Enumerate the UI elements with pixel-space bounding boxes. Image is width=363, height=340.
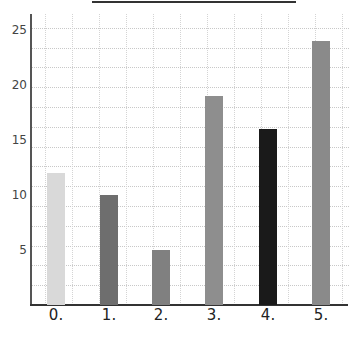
x-tick-label: 1.: [89, 306, 129, 324]
grid-line-h: [31, 48, 349, 49]
bar-2: [152, 250, 170, 305]
y-tick-label: 20: [0, 79, 27, 91]
grid-line-v: [45, 14, 46, 305]
y-tick-label: 15: [0, 134, 27, 146]
grid-line-h: [31, 265, 349, 266]
plot-area: [31, 14, 349, 305]
grid-line-v: [342, 14, 343, 305]
x-tick-label: 4.: [248, 306, 288, 324]
grid-line-h: [31, 67, 349, 68]
grid-line-v: [180, 14, 181, 305]
grid-line-h: [31, 87, 349, 88]
y-tick-label: 5: [0, 244, 27, 256]
y-tick-label: 10: [0, 189, 27, 201]
bar-0: [47, 173, 65, 305]
grid-line-h: [31, 226, 349, 227]
bar-5: [312, 41, 330, 305]
y-axis: [30, 14, 32, 306]
bar-4: [259, 129, 277, 305]
grid-line-h: [31, 127, 349, 128]
bar-1: [100, 195, 118, 305]
grid-line-v: [126, 14, 127, 305]
x-tick-label: 5.: [301, 306, 341, 324]
x-tick-label: 0.: [36, 306, 76, 324]
grid-line-h: [31, 186, 349, 187]
x-tick-label: 3.: [194, 306, 234, 324]
x-tick-label: 2.: [141, 306, 181, 324]
grid-line-h: [31, 147, 349, 148]
grid-line-h: [31, 285, 349, 286]
grid-line-h: [31, 107, 349, 108]
y-tick-label: 25: [0, 24, 27, 36]
grid-line-v: [288, 14, 289, 305]
bar-3: [205, 96, 223, 305]
grid-line-h: [31, 28, 349, 29]
title-underline: [92, 1, 296, 3]
grid-line-v: [72, 14, 73, 305]
grid-line-v: [234, 14, 235, 305]
grid-line-h: [31, 166, 349, 167]
grid-line-h: [31, 206, 349, 207]
grid-line-h: [31, 246, 349, 247]
